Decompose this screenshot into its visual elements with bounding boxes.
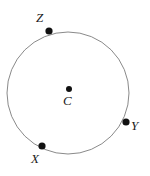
center-point-dot <box>66 86 72 92</box>
point-label-y: Y <box>131 119 138 132</box>
circle-diagram-canvas <box>0 0 150 176</box>
geometry-figure: Z Y X C <box>0 0 150 176</box>
point-dot-x <box>38 142 45 149</box>
point-dot-z <box>45 27 52 34</box>
point-label-z: Z <box>36 11 43 24</box>
point-label-x: X <box>31 152 39 165</box>
point-dot-y <box>122 118 129 125</box>
center-label-c: C <box>63 94 72 107</box>
